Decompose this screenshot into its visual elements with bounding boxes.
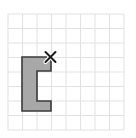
c-shaped-polygon [22, 57, 51, 111]
figure-canvas [0, 0, 136, 138]
grid-figure [0, 0, 136, 138]
